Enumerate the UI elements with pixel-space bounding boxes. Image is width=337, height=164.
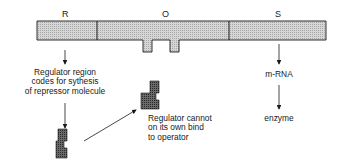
segment-label-s: S bbox=[275, 9, 281, 19]
repressor-shape-1 bbox=[56, 129, 67, 158]
segment-label-o: O bbox=[162, 9, 169, 19]
enzyme-label: enzyme bbox=[258, 114, 300, 123]
line-3: to operator bbox=[148, 133, 212, 142]
repressor-shape-2 bbox=[141, 81, 159, 109]
line-3: of repressor molecule bbox=[4, 87, 126, 96]
mrna-label: m-RNA bbox=[260, 70, 298, 79]
segment-label-r: R bbox=[62, 9, 69, 19]
regulator-region-text: Regulator region codes for sythesis of r… bbox=[4, 68, 126, 96]
regulator-cannot-text: Regulator cannot on its own bind to oper… bbox=[148, 114, 212, 142]
gene-bar bbox=[37, 21, 326, 52]
arrow-diagonal bbox=[84, 110, 136, 141]
